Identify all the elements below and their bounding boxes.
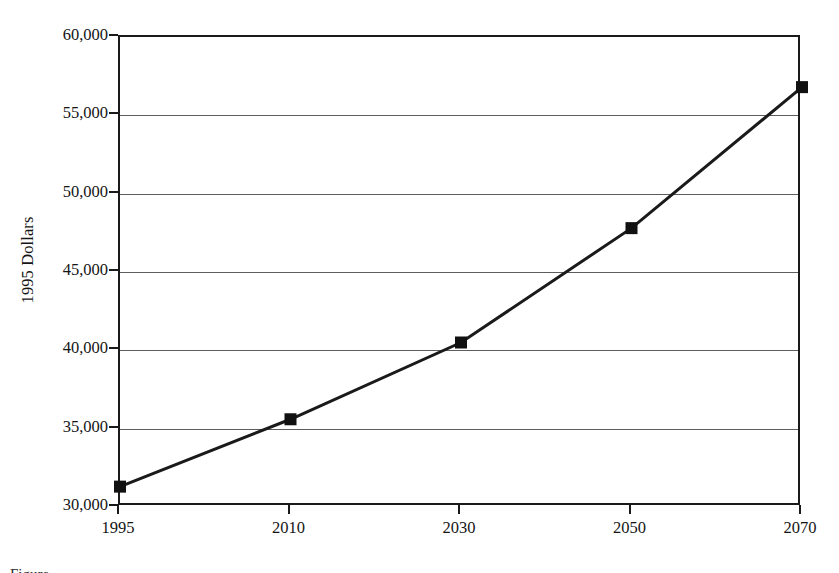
data-point-marker: [455, 337, 467, 349]
x-axis-tick-label: 2070: [784, 518, 817, 538]
data-point-marker: [626, 222, 638, 234]
series-line: [120, 87, 802, 487]
x-axis-tick: [117, 505, 119, 514]
series-markers: [114, 81, 808, 493]
x-axis-tick-label: 2030: [443, 518, 476, 538]
figure-container: 1995 Dollars 60,00055,00050,00045,00040,…: [0, 0, 839, 573]
plot-area: [118, 35, 800, 505]
data-point-marker: [796, 81, 808, 93]
data-point-marker: [114, 481, 126, 493]
y-axis-tick: [109, 426, 118, 428]
x-axis-tick-labels: 19952010203020502070: [0, 518, 839, 548]
y-axis-tick-label: 55,000: [63, 103, 108, 123]
y-axis-tick-label: 60,000: [63, 25, 108, 45]
y-axis-tick: [109, 269, 118, 271]
data-series: [120, 37, 802, 507]
y-axis-tick: [109, 347, 118, 349]
y-axis-tick-label: 50,000: [63, 182, 108, 202]
x-axis-tick-label: 1995: [102, 518, 135, 538]
data-point-marker: [285, 413, 297, 425]
x-axis-tick-label: 2050: [613, 518, 646, 538]
y-axis-tick-labels: 60,00055,00050,00045,00040,00035,00030,0…: [36, 0, 118, 573]
y-axis-tick: [109, 112, 118, 114]
y-axis-tick-label: 45,000: [63, 260, 108, 280]
x-axis-tick-label: 2010: [272, 518, 305, 538]
y-axis-tick-label: 30,000: [63, 495, 108, 515]
y-axis-tick-label: 35,000: [63, 417, 108, 437]
figure-caption: Figure: [10, 566, 830, 573]
y-axis-tick: [109, 191, 118, 193]
y-axis-tick-label: 40,000: [63, 338, 108, 358]
y-axis-tick: [109, 34, 118, 36]
y-axis-title-label: 1995 Dollars: [18, 217, 38, 304]
